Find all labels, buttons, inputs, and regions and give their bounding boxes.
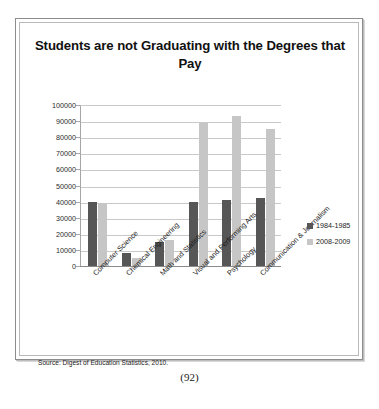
legend-label: 2008-2009 bbox=[316, 237, 350, 246]
figure-box: Students are not Graduating with the Deg… bbox=[15, 18, 363, 360]
gridline bbox=[81, 203, 281, 204]
source-note: Source: Digest of Education Statistics, … bbox=[38, 359, 168, 366]
y-axis-tick-label: 40000 bbox=[30, 198, 76, 207]
y-axis-tick-label: 90000 bbox=[30, 117, 76, 126]
y-axis-tick-label: 70000 bbox=[30, 149, 76, 158]
legend-swatch-icon bbox=[307, 223, 313, 229]
page-number: (92) bbox=[0, 371, 379, 383]
y-axis-tick-label: 10000 bbox=[30, 246, 76, 255]
y-axis-tick-label: 20000 bbox=[30, 230, 76, 239]
gridline bbox=[81, 235, 281, 236]
chart-title: Students are not Graduating with the Deg… bbox=[34, 37, 346, 73]
chart-legend: 1984-19852008-2009 bbox=[307, 221, 369, 253]
bar bbox=[88, 202, 97, 266]
legend-label: 1984-1985 bbox=[316, 221, 350, 230]
figure-inner-border: Students are not Graduating with the Deg… bbox=[19, 22, 359, 356]
gridline bbox=[81, 154, 281, 155]
x-axis-category-labels: Computer ScienceChemical EngineeringMath… bbox=[20, 266, 368, 361]
gridline bbox=[81, 187, 281, 188]
y-axis-tick-label: 80000 bbox=[30, 133, 76, 142]
bar bbox=[256, 198, 265, 266]
bar-group bbox=[88, 105, 107, 266]
gridline bbox=[81, 170, 281, 171]
legend-item: 2008-2009 bbox=[307, 237, 369, 246]
bar bbox=[199, 123, 208, 266]
gridline bbox=[81, 138, 281, 139]
y-axis-tick-label: 60000 bbox=[30, 165, 76, 174]
plot-area bbox=[80, 105, 281, 266]
bar bbox=[232, 116, 241, 266]
y-axis: 0100002000030000400005000060000700008000… bbox=[28, 105, 76, 266]
legend-item: 1984-1985 bbox=[307, 221, 369, 230]
bar-group bbox=[256, 105, 275, 266]
gridline bbox=[81, 122, 281, 123]
y-axis-tick-label: 100000 bbox=[30, 101, 76, 110]
y-axis-tick-label: 30000 bbox=[30, 214, 76, 223]
legend-swatch-icon bbox=[307, 239, 313, 245]
bar bbox=[266, 129, 275, 266]
y-axis-tick-label: 50000 bbox=[30, 182, 76, 191]
